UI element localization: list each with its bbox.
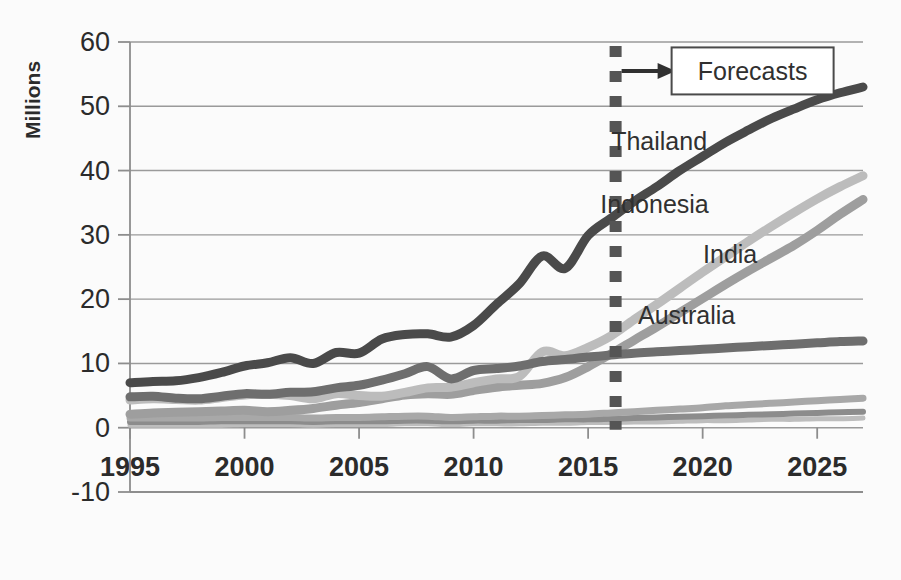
y-tick-label: 40 [80,156,110,186]
y-tick-label: 50 [80,91,110,121]
series-label-australia: Australia [638,301,735,329]
y-tick-label: 30 [80,220,110,250]
x-axis-ticks: 1995200020052010201520202025 [100,428,847,482]
x-tick-label: 2000 [214,452,274,482]
series-label-thailand: Thailand [611,127,707,155]
y-tick-label: 10 [80,348,110,378]
x-tick-label: 2015 [558,452,618,482]
y-axis-title-text: Millions [21,61,44,139]
line-chart: 6050403020100-10 19952000200520102015202… [0,0,901,580]
y-axis-ticks: 6050403020100-10 [71,27,130,507]
y-tick-label: 60 [80,27,110,57]
y-tick-label: 0 [95,413,110,443]
y-tick-label: 20 [80,284,110,314]
series-label-indonesia: Indonesia [600,190,709,218]
x-tick-label: 2005 [329,452,389,482]
x-tick-label: 2020 [673,452,733,482]
forecast-label: Forecasts [698,57,808,85]
x-tick-label: 2010 [444,452,504,482]
x-tick-label: 2025 [787,452,847,482]
chart-container: 6050403020100-10 19952000200520102015202… [0,0,901,580]
series-label-india: India [703,240,757,268]
y-axis-title: Millions [21,61,44,139]
